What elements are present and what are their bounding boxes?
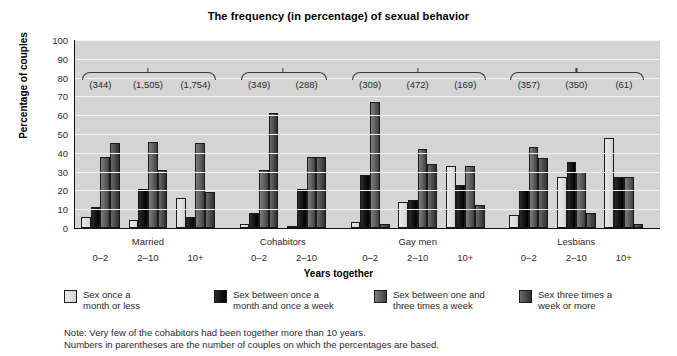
- x-axis-tick-label: 2–10: [137, 252, 158, 263]
- legend-label: Sex between once a month and once a week: [233, 289, 334, 311]
- bar: [446, 166, 456, 228]
- bar: [249, 213, 259, 228]
- bar: [604, 138, 614, 228]
- x-axis-tick-label: 2–10: [407, 252, 428, 263]
- chart-figure: The frequency (in percentage) of sexual …: [0, 0, 677, 356]
- sample-size-label: (1,505): [133, 79, 163, 90]
- bar: [287, 226, 297, 228]
- x-axis-tick-label: 0–2: [521, 252, 537, 263]
- y-axis-tick-label: 10: [34, 204, 68, 215]
- sample-size-label: (357): [518, 79, 540, 90]
- legend-item[interactable]: Sex between once a month and once a week: [214, 289, 334, 311]
- bar: [465, 166, 475, 228]
- gridline: [75, 153, 660, 154]
- bar: [586, 213, 596, 228]
- bar: [408, 200, 418, 228]
- chart-title: The frequency (in percentage) of sexual …: [0, 10, 677, 22]
- bar: [176, 198, 186, 228]
- group-brace: [352, 72, 486, 80]
- bar: [91, 207, 101, 228]
- bar: [129, 220, 139, 228]
- bar: [100, 157, 110, 228]
- x-axis-tick-label: 10+: [616, 252, 632, 263]
- x-axis-group-label: Cohabitors: [260, 236, 306, 247]
- gridline: [75, 190, 660, 191]
- y-axis-tick-label: 90: [34, 53, 68, 64]
- y-axis-title: Percentage of couples: [18, 0, 29, 181]
- x-axis-tick-label: 2–10: [296, 252, 317, 263]
- bar: [529, 147, 539, 228]
- bar: [360, 175, 370, 228]
- x-axis-group-label: Gay men: [398, 236, 437, 247]
- bar: [614, 177, 624, 228]
- bar: [307, 157, 317, 228]
- legend-swatch-icon: [214, 290, 227, 303]
- bar: [148, 142, 158, 228]
- sample-size-label: (61): [615, 79, 632, 90]
- y-axis-tick-label: 40: [34, 147, 68, 158]
- y-axis-tick-label: 60: [34, 110, 68, 121]
- gridline: [75, 40, 660, 41]
- y-axis-tick-label: 100: [34, 35, 68, 46]
- sample-size-label: (288): [295, 79, 317, 90]
- gridline: [75, 209, 660, 210]
- bar: [624, 177, 634, 228]
- y-axis-tick-label: 30: [34, 166, 68, 177]
- gridline: [75, 96, 660, 97]
- x-axis-tick-label: 10+: [187, 252, 203, 263]
- legend-label: Sex between one and three times a week: [393, 289, 485, 311]
- bar: [427, 164, 437, 228]
- sample-size-label: (472): [407, 79, 429, 90]
- bar: [110, 143, 120, 228]
- legend-item[interactable]: Sex between one and three times a week: [374, 289, 485, 311]
- gridline: [75, 172, 660, 173]
- x-axis-group-label: Lesbians: [557, 236, 595, 247]
- chart-note-line: Note: Very few of the cohabitors had bee…: [64, 327, 664, 339]
- bar: [81, 217, 91, 228]
- y-axis-tick-label: 0: [34, 223, 68, 234]
- bar: [538, 158, 548, 228]
- gridline: [75, 134, 660, 135]
- bar: [418, 149, 428, 228]
- legend-item[interactable]: Sex once a month or less: [64, 289, 140, 311]
- x-axis-tick-label: 0–2: [92, 252, 108, 263]
- x-axis-group-label: Married: [132, 236, 164, 247]
- bar: [634, 224, 644, 228]
- sample-size-label: (349): [248, 79, 270, 90]
- legend-label: Sex three times a week or more: [538, 289, 612, 311]
- bar: [576, 172, 586, 228]
- bar: [158, 170, 168, 228]
- x-axis-title: Years together: [0, 268, 677, 279]
- sample-size-label: (344): [89, 79, 111, 90]
- group-brace-tick: [417, 68, 418, 72]
- gridline: [75, 59, 660, 60]
- x-axis-tick-label: 10+: [457, 252, 473, 263]
- group-brace: [510, 72, 644, 80]
- chart-note-line: Numbers in parentheses are the number of…: [64, 339, 664, 351]
- bar: [259, 170, 269, 228]
- group-brace-tick: [282, 68, 283, 72]
- legend-swatch-icon: [374, 290, 387, 303]
- x-axis-tick-label: 0–2: [251, 252, 267, 263]
- y-axis-tick-label: 50: [34, 129, 68, 140]
- chart-legend: Sex once a month or lessSex between once…: [64, 289, 624, 319]
- y-axis-tick-label: 70: [34, 91, 68, 102]
- bar: [380, 224, 390, 228]
- bar: [240, 224, 250, 228]
- chart-notes: Note: Very few of the cohabitors had bee…: [64, 327, 664, 351]
- bar: [351, 222, 361, 228]
- legend-item[interactable]: Sex three times a week or more: [519, 289, 612, 311]
- plot-area: [75, 40, 660, 229]
- bar: [186, 217, 196, 228]
- bar: [557, 177, 567, 228]
- sample-size-label: (309): [359, 79, 381, 90]
- x-axis-tick-label: 0–2: [362, 252, 378, 263]
- group-brace: [241, 72, 327, 80]
- y-axis-tick-label: 80: [34, 72, 68, 83]
- y-axis-tick-label: 20: [34, 185, 68, 196]
- sample-size-label: (1,754): [180, 79, 210, 90]
- sample-size-label: (169): [454, 79, 476, 90]
- gridline: [75, 115, 660, 116]
- group-brace: [82, 72, 216, 80]
- legend-swatch-icon: [519, 290, 532, 303]
